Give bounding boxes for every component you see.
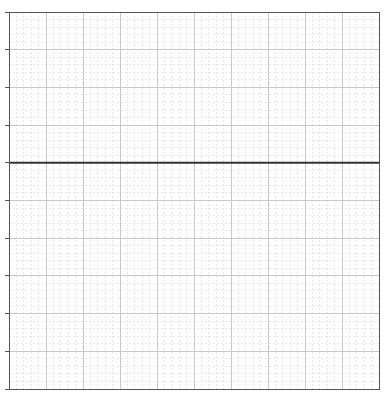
plot-area — [0, 0, 384, 395]
chart — [0, 0, 384, 395]
